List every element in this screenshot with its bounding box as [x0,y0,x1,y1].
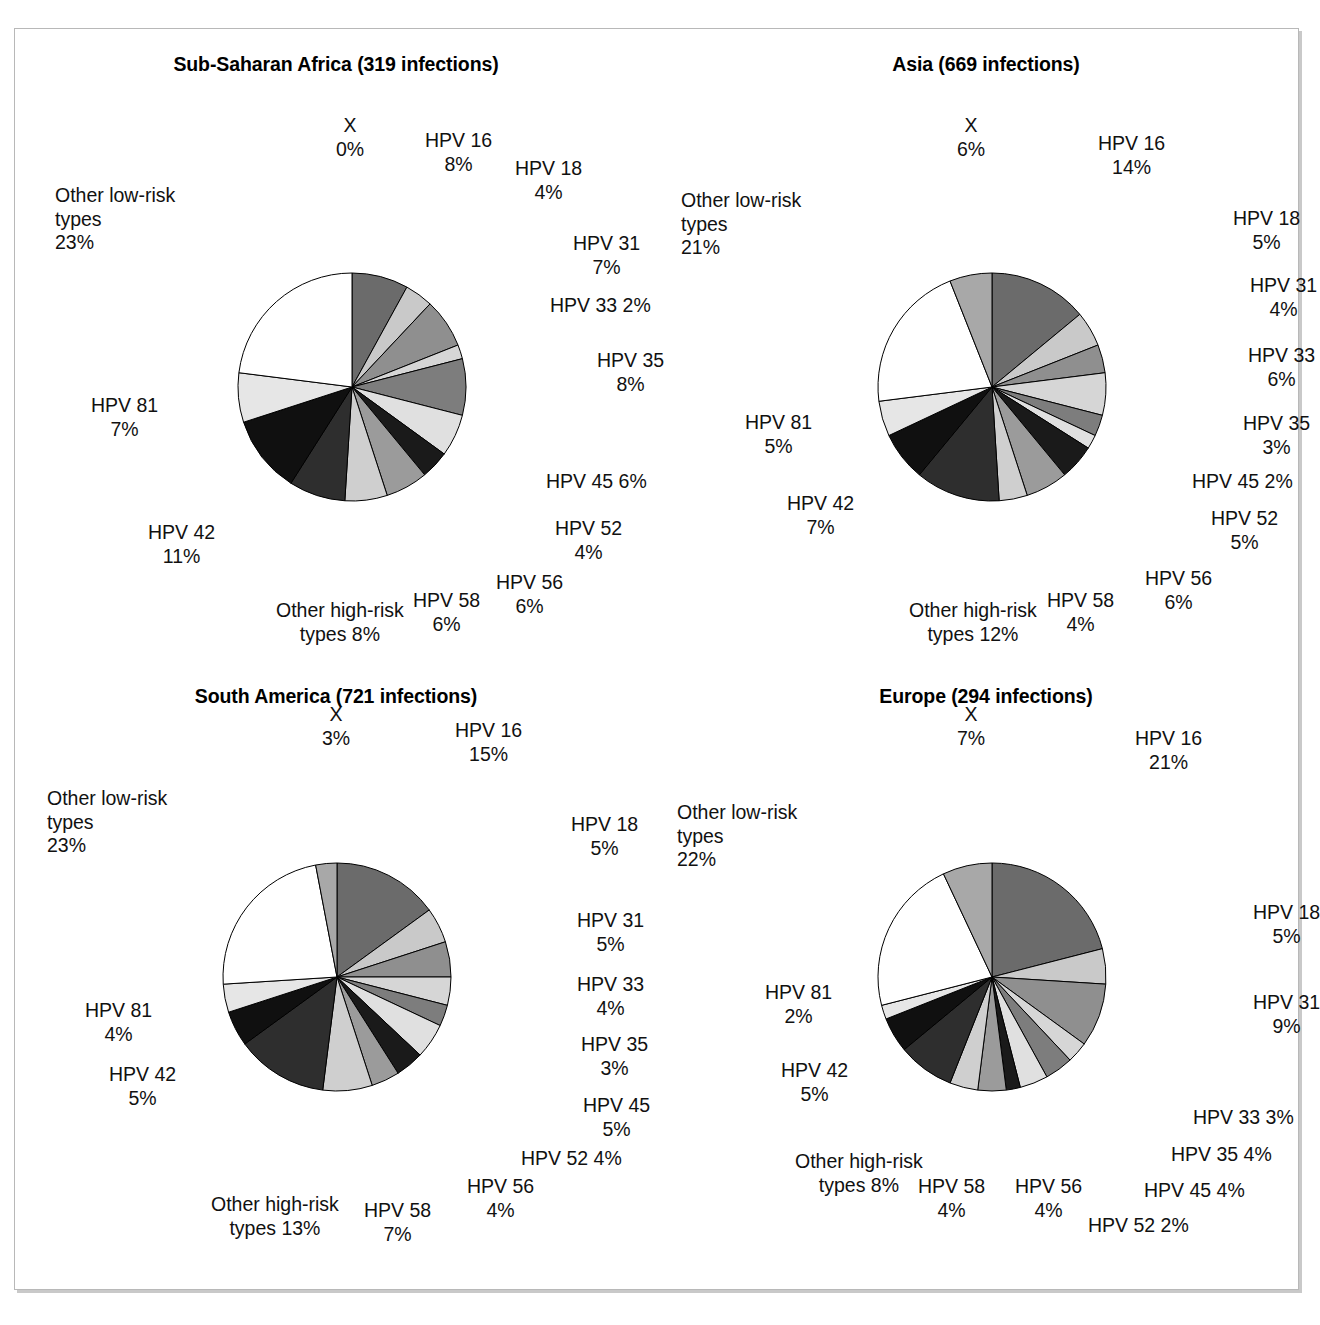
pie-slice-label-line: HPV 16 [425,129,492,153]
pie-slice-label-line: HPV 31 [577,909,644,933]
pie-slice [223,977,337,1012]
pie-slice-label-line: 14% [1098,156,1165,180]
pie-slice-label: HPV 314% [1250,274,1317,321]
pie-slice-label-line: HPV 16 [455,719,522,743]
pie-slice-label-line: 3% [581,1057,648,1081]
pie-slice [992,949,1106,985]
pie-slice-label-line: HPV 35 [581,1033,648,1057]
pie-slice [245,977,337,1090]
pie-slice-label-line: types [677,825,797,849]
pie-slice-label: Other high-risktypes 8% [276,599,404,646]
pie-slice [337,977,447,1026]
pie-slice-label-line: 5% [1253,925,1320,949]
pie-slice-label-line: HPV 81 [91,394,158,418]
pie-slice-label-line: HPV 58 [918,1175,985,1199]
pie-slice-label: HPV 564% [1015,1175,1082,1222]
pie-slice-label: HPV 425% [109,1063,176,1110]
pie-slice-label-line: HPV 52 4% [521,1147,622,1171]
pie-slice-label: HPV 584% [918,1175,985,1222]
pie-slice-label-line: HPV 31 [1250,274,1317,298]
pie-slice-label-line: 4% [85,1023,152,1047]
pie-slice-label-line: 11% [148,545,215,569]
pie-slice-label-line: 6% [957,138,985,162]
pie-slice-label-line: HPV 31 [1253,991,1320,1015]
pie-slice [978,977,1007,1091]
pie-slice-label-line: HPV 45 6% [546,470,647,494]
pie-slice-label-line: HPV 31 [573,232,640,256]
pie-slice-label-line: HPV 81 [745,411,812,435]
pie-slice [992,345,1105,387]
pie-slice-label-line: 4% [467,1199,534,1223]
pie-slice-label-line: Other low-risk [47,787,167,811]
pie-slice-label: HPV 525% [1211,507,1278,554]
pie-slice-label-line: HPV 81 [765,981,832,1005]
pie-slice-label-line: Other high-risk [276,599,404,623]
pie-slice-label-line: types 12% [909,623,1037,647]
pie-slice [950,977,992,1090]
pie-slice-label-line: HPV 42 [148,521,215,545]
pie-slice-label-line: HPV 45 4% [1144,1179,1245,1203]
pie-slice-label-line: HPV 33 [577,973,644,997]
pie-slice-label: HPV 185% [1233,207,1300,254]
pie-slice-label: HPV 315% [577,909,644,956]
pie-slice-label: HPV 1614% [1098,132,1165,179]
pie-slice-label-line: HPV 45 [583,1094,650,1118]
pie-slice-label-line: HPV 81 [85,999,152,1023]
pie-slice-label: HPV 455% [583,1094,650,1141]
pie-slice [352,304,458,387]
pie-slice-label-line: 4% [1250,298,1317,322]
pie-slice [882,977,992,1019]
pie-slice-label: HPV 353% [581,1033,648,1080]
pie-slice-label-line: HPV 18 [1253,901,1320,925]
pie-slice-label: HPV 566% [496,571,563,618]
pie-slice-label: HPV 1621% [1135,727,1202,774]
pie-slice-label: HPV 584% [1047,589,1114,636]
pie-slice-label: HPV 358% [597,349,664,396]
pie-panel-asia: Asia (669 infections) X6%HPV 1614%HPV 18… [665,29,1307,659]
pie-slice-label-line: HPV 52 [1211,507,1278,531]
pie-slice [229,977,337,1044]
pie-slice-label-line: types 13% [211,1217,339,1241]
pie-slice [992,977,1084,1060]
pie-slice [878,281,992,401]
pie-slice [992,387,1095,448]
pie-slice-label-line: HPV 56 [467,1175,534,1199]
pie-slice-label: X0% [336,114,364,161]
pie-slice-label: HPV 185% [571,813,638,860]
pie-slice-label-line: HPV 42 [781,1059,848,1083]
pie-slice-label-line: types [681,213,801,237]
pie-slice-label-line: types [47,811,167,835]
pie-slice-label-line: HPV 33 [1248,344,1315,368]
pie-slice [992,977,1020,1090]
pie-slice-label-line: 4% [515,181,582,205]
pie-slice [352,273,407,387]
pie-slice-label-line: 5% [781,1083,848,1107]
pie-slice-label-line: 15% [455,743,522,767]
pie-slice-label: HPV 564% [467,1175,534,1222]
pie-slice [337,977,398,1085]
pie-slice-label-line: 22% [677,848,797,872]
pie-slice-label-line: types 8% [795,1174,923,1198]
pie-slice-label-line: HPV 58 [413,589,480,613]
pie-slice [352,345,462,387]
panel-title: Asia (669 infections) [665,53,1307,76]
pie-slice-label-line: X [957,703,985,727]
pie-slice-label: X3% [322,703,350,750]
pie-slice [992,387,1102,436]
pie-panel-europe: Europe (294 infections) X7%HPV 1621%HPV … [665,661,1307,1291]
pie-slice-label-line: 5% [745,435,812,459]
pie-slice-label-line: HPV 16 [1135,727,1202,751]
pie-slice-label-line: 4% [1047,613,1114,637]
pie-slice-label: X6% [957,114,985,161]
pie-slice-label-line: HPV 35 [597,349,664,373]
pie-slice-label-line: HPV 56 [1145,567,1212,591]
pie-slice-label-line: X [957,114,985,138]
pie-slice-label-line: HPV 52 [555,517,622,541]
pie-slice [886,977,992,1050]
pie-slice-label-line: HPV 56 [496,571,563,595]
pie-slice-label: HPV 4211% [148,521,215,568]
pie-slice-label-line: HPV 35 [1243,412,1310,436]
pie-slice-label: HPV 587% [364,1199,431,1246]
pie-slice-label: HPV 45 6% [546,470,647,494]
pie-slice-label-line: 23% [55,231,175,255]
